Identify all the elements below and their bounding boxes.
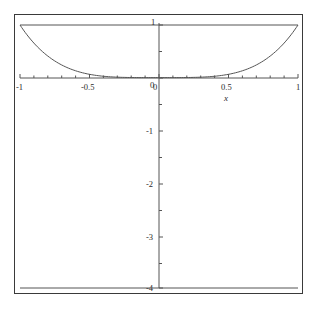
y-tick-label-neg4: -4 [146,284,153,293]
y-tick-label-neg1: -1 [146,127,153,136]
y-axis-minor-ticks [159,25,163,288]
x-tick-label-1: 1 [296,83,300,92]
plot-canvas [0,0,320,311]
x-tick-label-neg0p5: -0.5 [81,83,94,92]
y-tick-label-neg3: -3 [146,233,153,242]
y-tick-label-neg2: -2 [146,180,153,189]
y-tick-label-1: 1 [151,18,155,27]
x-tick-label-neg1: -1 [16,83,23,92]
x-tick-label-0p5: 0.5 [221,83,232,92]
y-tick-label-0: 0 [150,81,154,90]
plot-root: -1 -0.5 0 0.5 1 1 0 -1 -2 -3 -4 x [0,0,320,311]
x-axis-label: x [224,94,228,103]
